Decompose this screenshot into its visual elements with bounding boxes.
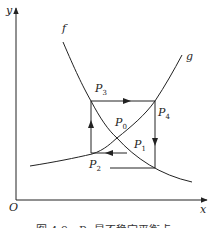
label-p4: P4 <box>157 106 170 121</box>
label-p2: P2 <box>88 158 101 173</box>
arrow-up-icon <box>88 120 94 128</box>
arrow-down-icon <box>152 138 158 146</box>
arrow-right-icon <box>123 98 131 104</box>
curve-f-label: f <box>61 22 68 35</box>
curve-g-label: g <box>186 50 193 63</box>
cobweb-diagram: y O x f g P3 P4 P0 P1 P2 图 4.9 P₀ 是不稳定平衡… <box>0 0 213 228</box>
origin-label: O <box>9 201 18 214</box>
curve-f <box>63 42 192 182</box>
y-axis-label: y <box>5 4 13 17</box>
label-p0: P0 <box>114 116 127 131</box>
label-p3: P3 <box>94 82 107 97</box>
x-axis-label: x <box>200 203 207 216</box>
figure-caption: 图 4.9 P₀ 是不稳定平衡点 <box>36 223 171 228</box>
label-p1: P1 <box>133 138 146 153</box>
arrow-left-icon <box>105 150 113 156</box>
